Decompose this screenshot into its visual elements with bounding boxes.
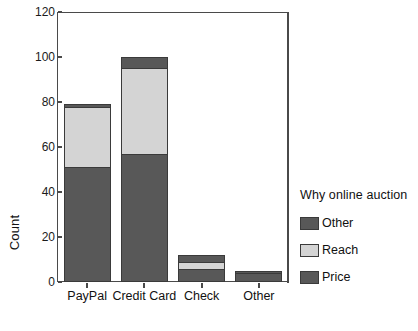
- bar-segment-price: [121, 154, 168, 282]
- legend-entries: OtherReachPrice: [300, 216, 418, 284]
- x-axis-tick-label: Other: [243, 289, 274, 303]
- legend-swatch-icon: [300, 271, 319, 284]
- y-axis-tick-label: 100: [0, 50, 55, 64]
- bar-segment-other: [121, 57, 168, 68]
- bar-check: [178, 255, 225, 282]
- bar-segment-price: [235, 273, 282, 282]
- bar-credit-card: [121, 57, 168, 282]
- y-axis-tick-label: 20: [0, 230, 55, 244]
- bar-segment-price: [64, 167, 111, 282]
- legend-item-reach: Reach: [300, 243, 418, 257]
- x-axis-tick-mark: [143, 283, 145, 288]
- y-axis-tick-label: 120: [0, 5, 55, 19]
- bar-segment-reach: [178, 262, 225, 269]
- y-axis-tick-label: 60: [0, 140, 55, 154]
- x-axis-tick-label: Check: [184, 289, 219, 303]
- x-axis-tick-mark: [258, 283, 260, 288]
- legend-title: Why online auction: [300, 188, 418, 202]
- x-axis-tick-label: Credit Card: [112, 289, 176, 303]
- x-axis-tick-mark: [86, 283, 88, 288]
- legend-item-other: Other: [300, 216, 418, 230]
- y-axis-tick-label: 80: [0, 95, 55, 109]
- legend-swatch-icon: [300, 244, 319, 257]
- y-axis-tick-label: 40: [0, 185, 55, 199]
- x-axis-tick-mark: [201, 283, 203, 288]
- legend-item-price: Price: [300, 270, 418, 284]
- legend-item-label: Other: [322, 216, 353, 230]
- bar-other: [235, 271, 282, 282]
- bar-segment-other: [178, 255, 225, 262]
- bar-segment-reach: [64, 107, 111, 168]
- bar-segment-reach: [121, 68, 168, 154]
- bars-container: [59, 12, 288, 282]
- legend-item-label: Price: [322, 270, 350, 284]
- stacked-bar-chart: Count 020406080100120 PayPalCredit CardC…: [0, 0, 418, 331]
- bar-paypal: [64, 104, 111, 282]
- y-axis-tick-label: 0: [0, 275, 55, 289]
- legend-swatch-icon: [300, 217, 319, 230]
- x-axis-tick-label: PayPal: [67, 289, 107, 303]
- legend-item-label: Reach: [322, 243, 358, 257]
- legend: Why online auction OtherReachPrice: [300, 188, 418, 297]
- bar-segment-price: [178, 269, 225, 283]
